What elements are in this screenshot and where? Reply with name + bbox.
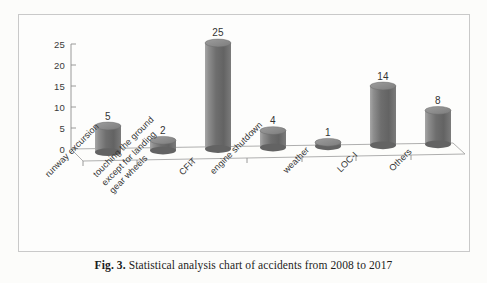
figure-caption: Fig. 3. Statistical analysis chart of ac… [0, 259, 487, 271]
value-label-engine-shutdown: 4 [260, 115, 286, 126]
bar-loc-i [370, 82, 396, 149]
bar-engine-shutdown [260, 127, 286, 152]
chart-plot-area: 25 20 15 10 5 0 5 2 25 4 1 14 8 runway e… [19, 15, 471, 253]
figure-caption-text: Statistical analysis chart of accidents … [129, 259, 393, 271]
figure-number: Fig. 3. [95, 259, 126, 271]
y-tick-label-20: 20 [43, 60, 65, 71]
bar-weather [315, 138, 341, 150]
value-label-loc-i: 14 [370, 71, 396, 82]
y-axis [71, 44, 76, 149]
value-label-cfit: 25 [205, 27, 231, 38]
figure-container: 25 20 15 10 5 0 5 2 25 4 1 14 8 runway e… [0, 0, 487, 283]
y-tick-label-5: 5 [43, 123, 65, 134]
y-tick-label-25: 25 [43, 39, 65, 50]
value-label-weather: 1 [315, 127, 341, 138]
value-label-others: 8 [425, 95, 451, 106]
y-tick-label-15: 15 [43, 81, 65, 92]
chart-frame: 25 20 15 10 5 0 5 2 25 4 1 14 8 runway e… [18, 14, 470, 252]
bar-others [425, 107, 451, 149]
value-label-runway-excursion: 5 [95, 111, 121, 122]
y-tick-label-10: 10 [43, 102, 65, 113]
bar-cfit [205, 39, 231, 153]
